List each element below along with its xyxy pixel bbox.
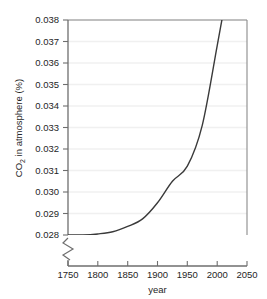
x-tick-label: 1800 xyxy=(87,269,108,280)
x-tick-label: 2000 xyxy=(207,269,228,280)
y-tick-label: 0.035 xyxy=(35,79,59,90)
co2-line-chart: 0.038 0.037 0.036 0.035 0.034 0.033 0.03… xyxy=(0,0,267,299)
y-tick-label: 0.036 xyxy=(35,57,59,68)
x-tick-label: 1950 xyxy=(177,269,198,280)
x-tick-label: 2050 xyxy=(236,269,257,280)
x-tick-label: 1850 xyxy=(117,269,138,280)
x-tick-labels: 1750 1800 1850 1900 1950 2000 2050 xyxy=(57,269,257,280)
y-tick-label: 0.038 xyxy=(35,14,59,25)
y-tick-label: 0.034 xyxy=(35,100,59,111)
x-axis-title: year xyxy=(148,284,166,295)
x-tick-label: 1900 xyxy=(147,269,168,280)
y-tick-label: 0.037 xyxy=(35,36,59,47)
y-tick-label: 0.032 xyxy=(35,143,59,154)
y-tick-label: 0.029 xyxy=(35,208,59,219)
chart-svg: 0.038 0.037 0.036 0.035 0.034 0.033 0.03… xyxy=(0,0,267,299)
x-tick-label: 1750 xyxy=(57,269,78,280)
y-axis-title-suffix: in atmosphere (%) xyxy=(13,79,24,159)
y-tick-label: 0.030 xyxy=(35,186,59,197)
y-tick-label: 0.028 xyxy=(35,229,59,240)
y-axis-title-prefix: CO xyxy=(13,163,24,177)
y-tick-label: 0.033 xyxy=(35,122,59,133)
y-tick-label: 0.031 xyxy=(35,165,59,176)
